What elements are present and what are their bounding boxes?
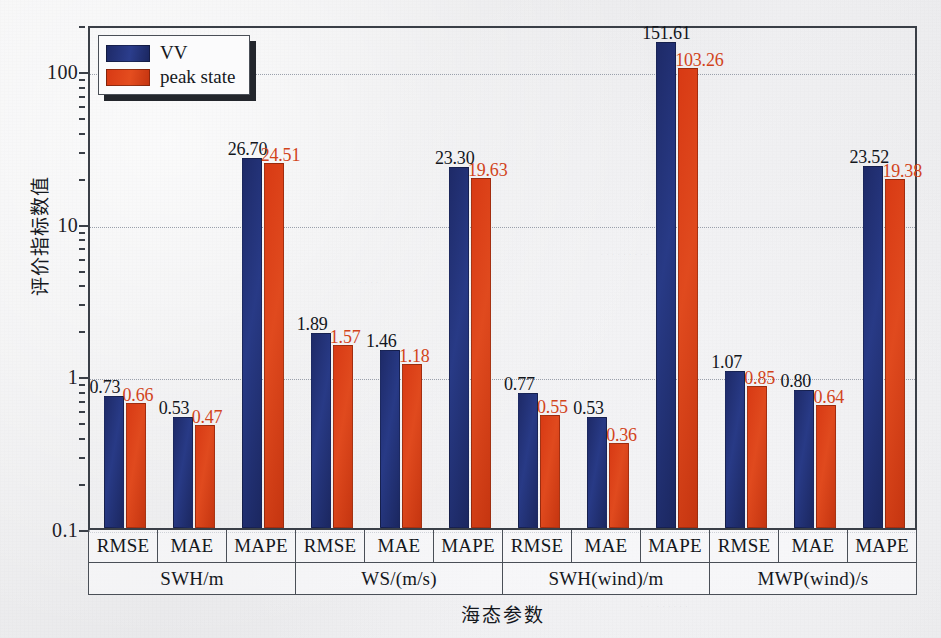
bar-value-label: 0.36 [606, 425, 637, 446]
x-group-cell: SWH/m [89, 563, 296, 594]
y-tick-label: 0.1 [52, 519, 78, 542]
bar-peak-state [885, 179, 905, 528]
bar-peak-state [678, 68, 698, 528]
x-metric-cell-rmse: RMSE [296, 530, 365, 562]
bar-value-label: 0.73 [90, 377, 121, 398]
bar-vv [104, 396, 124, 528]
x-metric-cell-mape: MAPE [227, 530, 296, 562]
y-tick-label: 1 [68, 366, 78, 389]
y-tick-minor [79, 457, 85, 459]
bar-peak-state [540, 415, 560, 528]
bar-peak-state [816, 405, 836, 528]
x-group-cell: WS/(m/s) [296, 563, 503, 594]
y-tick-minor [79, 239, 85, 241]
y-tick-minor [79, 179, 85, 181]
x-axis-group-row: SWH/mWS/(m/s)SWH(wind)/mMWP(wind)/s [88, 563, 917, 595]
x-metric-cell-mae: MAE [572, 530, 641, 562]
legend-item-vv: VV [106, 41, 235, 65]
bar-value-label: 0.53 [159, 398, 190, 419]
legend-label-vv: VV [160, 42, 187, 64]
y-tick-minor [79, 79, 85, 81]
bar-vv [656, 42, 676, 528]
x-metric-cell-rmse: RMSE [89, 530, 158, 562]
y-tick-minor [79, 118, 85, 120]
x-metric-cell-rmse: RMSE [503, 530, 572, 562]
gridline [90, 227, 915, 228]
x-metric-cell-mae: MAE [365, 530, 434, 562]
bar-value-label: 1.18 [399, 346, 430, 367]
y-tick-label: 10 [57, 213, 78, 236]
y-tick-minor [79, 401, 85, 403]
bar-vv [725, 371, 745, 528]
y-tick-minor [79, 26, 85, 28]
x-metric-cell-mae: MAE [158, 530, 227, 562]
y-tick-minor [79, 438, 85, 440]
bar-peak-state [264, 163, 284, 528]
bar-vv [380, 350, 400, 528]
bar-value-label: 103.26 [675, 50, 723, 71]
y-tick-minor [79, 232, 85, 234]
legend-label-peak-state: peak state [160, 66, 235, 88]
y-tick-minor [79, 133, 85, 135]
bar-value-label: 0.55 [537, 397, 568, 418]
x-metric-cell-mape: MAPE [434, 530, 503, 562]
bar-value-label: 0.64 [813, 387, 844, 408]
y-tick-minor [79, 96, 85, 98]
bar-value-label: 0.80 [780, 371, 811, 392]
x-axis-label-table: RMSEMAEMAPERMSEMAEMAPERMSEMAEMAPERMSEMAE… [88, 530, 917, 595]
x-metric-cell-mape: MAPE [848, 530, 917, 562]
y-tick-minor [79, 271, 85, 273]
bar-value-label: 0.85 [744, 368, 775, 389]
bar-vv [311, 333, 331, 528]
bar-vv [449, 167, 469, 528]
bar-peak-state [402, 364, 422, 528]
bar-vv [863, 166, 883, 528]
legend: VV peak state [98, 35, 250, 95]
y-tick-minor [79, 392, 85, 394]
y-tick-minor [79, 484, 85, 486]
bar-value-label: 19.38 [882, 161, 922, 182]
bar-vv [518, 393, 538, 528]
bar-peak-state [126, 403, 146, 528]
bar-value-label: 151.61 [642, 23, 690, 44]
bar-value-label: 0.66 [123, 385, 154, 406]
bar-value-label: 0.77 [504, 374, 535, 395]
x-metric-cell-mae: MAE [779, 530, 848, 562]
y-axis-ticks [0, 26, 10, 530]
y-tick-minor [79, 87, 85, 89]
bar-peak-state [471, 178, 491, 528]
bar-vv [587, 417, 607, 528]
bar-peak-state [333, 345, 353, 528]
bar-peak-state [195, 425, 215, 528]
x-axis-title: 海态参数 [88, 600, 917, 627]
bar-value-label: 1.89 [297, 314, 328, 335]
y-tick-label: 100 [47, 60, 78, 83]
plot-area: 0.730.660.530.4726.7024.511.891.571.461.… [88, 26, 917, 530]
y-tick-minor [79, 423, 85, 425]
y-tick-minor [79, 259, 85, 261]
bar-value-label: 0.53 [573, 398, 604, 419]
bar-peak-state [609, 443, 629, 528]
y-tick-minor [79, 248, 85, 250]
bar-value-label: 24.51 [261, 145, 301, 166]
x-metric-cell-rmse: RMSE [710, 530, 779, 562]
y-tick-minor [79, 384, 85, 386]
bar-vv [242, 158, 262, 528]
x-group-cell: MWP(wind)/s [710, 563, 917, 594]
legend-swatch-peak-state [106, 69, 150, 86]
bar-vv [794, 390, 814, 528]
bar-value-label: 0.47 [192, 407, 223, 428]
bar-value-label: 19.63 [468, 160, 508, 181]
legend-swatch-vv [106, 45, 150, 62]
y-tick-minor [79, 285, 85, 287]
y-axis-tick-labels: 0.1110100 [0, 26, 86, 530]
y-tick-minor [79, 411, 85, 413]
y-tick-minor [79, 106, 85, 108]
bar-peak-state [747, 386, 767, 528]
legend-item-peak-state: peak state [106, 65, 235, 89]
y-tick-minor [79, 331, 85, 333]
bar-value-label: 1.46 [366, 331, 397, 352]
x-group-cell: SWH(wind)/m [503, 563, 710, 594]
bar-vv [173, 417, 193, 528]
bar-value-label: 1.07 [711, 352, 742, 373]
